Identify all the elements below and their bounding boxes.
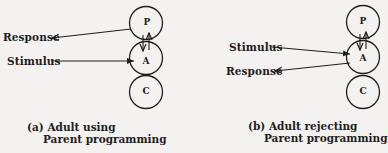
parent-node-label-b: P bbox=[355, 16, 371, 26]
response-arrow-b bbox=[275, 63, 350, 71]
adult-node-label-b: A bbox=[355, 53, 371, 63]
response-label-a: Response bbox=[3, 31, 60, 43]
response-label-b: Response bbox=[226, 65, 283, 77]
stimulus-label-b: Stimulus bbox=[229, 41, 283, 53]
parent-node-label-a: P bbox=[139, 17, 155, 27]
caption-a-line1: (a) Adult using bbox=[27, 121, 116, 133]
caption-b: (b) Adult rejecting Parent programming bbox=[248, 120, 388, 144]
caption-a-line2: Parent programming bbox=[27, 133, 167, 145]
adult-node-label-a: A bbox=[138, 56, 154, 66]
caption-b-line1: (b) Adult rejecting bbox=[248, 120, 357, 132]
caption-b-line2: Parent programming bbox=[248, 132, 388, 144]
response-arrow-a bbox=[52, 29, 131, 38]
child-node-label-a: C bbox=[138, 86, 154, 96]
child-node-label-b: C bbox=[355, 86, 371, 96]
caption-a: (a) Adult using Parent programming bbox=[27, 121, 167, 145]
stimulus-arrow-b bbox=[272, 47, 350, 54]
stimulus-label-a: Stimulus bbox=[7, 55, 61, 67]
